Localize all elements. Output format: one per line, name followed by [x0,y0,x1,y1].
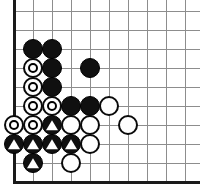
black-stone-triangle[interactable] [42,115,62,135]
black-stone[interactable] [80,96,100,116]
black-stone[interactable] [23,39,43,59]
black-stone[interactable] [80,58,100,78]
circle-marker-icon [28,63,38,73]
white-stone[interactable] [61,153,81,173]
grid-line-horizontal [14,30,200,31]
triangle-marker-icon [27,139,39,149]
black-stone[interactable] [61,96,81,116]
circle-marker-icon [28,120,38,130]
white-stone[interactable] [118,115,138,135]
black-stone-triangle[interactable] [23,134,43,154]
grid-line-vertical [109,0,110,182]
black-stone-triangle[interactable] [61,134,81,154]
white-stone-circle[interactable] [42,96,62,116]
black-stone[interactable] [42,58,62,78]
grid-line-vertical [166,0,167,182]
black-stone[interactable] [42,77,62,97]
grid-line-vertical [147,0,148,182]
white-stone[interactable] [99,96,119,116]
circle-marker-icon [47,101,57,111]
triangle-marker-icon [8,139,20,149]
grid-line-vertical [90,0,91,182]
white-stone-circle[interactable] [23,77,43,97]
white-stone-circle[interactable] [23,58,43,78]
circle-marker-icon [28,82,38,92]
white-stone[interactable] [61,115,81,135]
grid-line-horizontal [14,11,200,12]
black-stone-triangle[interactable] [4,134,24,154]
white-stone-circle[interactable] [23,96,43,116]
board-edge-bottom [13,181,200,184]
board-edge-left [13,0,16,184]
grid-line-vertical [185,0,186,182]
white-stone[interactable] [80,134,100,154]
grid-line-vertical [128,0,129,182]
black-stone-triangle[interactable] [42,134,62,154]
triangle-marker-icon [65,139,77,149]
black-stone-triangle[interactable] [23,153,43,173]
triangle-marker-icon [46,139,58,149]
circle-marker-icon [9,120,19,130]
triangle-marker-icon [27,158,39,168]
go-board[interactable] [0,0,200,195]
white-stone[interactable] [80,115,100,135]
white-stone-circle[interactable] [23,115,43,135]
black-stone[interactable] [42,39,62,59]
triangle-marker-icon [46,120,58,130]
circle-marker-icon [28,101,38,111]
white-stone-circle[interactable] [4,115,24,135]
go-diagram [0,0,200,195]
